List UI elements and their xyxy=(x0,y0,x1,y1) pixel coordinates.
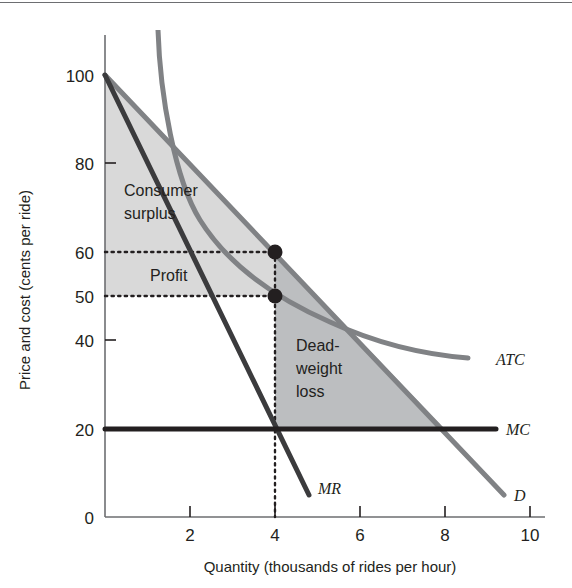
deadweight-loss-label-line3: loss xyxy=(296,383,324,400)
economics-chart: 100 80 60 50 40 20 0 2 4 6 8 10 Quantity… xyxy=(0,0,572,588)
x-tick-label-8: 8 xyxy=(440,526,449,545)
y-axis-label: Price and cost (cents per ride) xyxy=(16,190,33,390)
marginal-cost-curve-label: MC xyxy=(505,421,530,438)
y-tick-label-100: 100 xyxy=(66,67,94,86)
y-tick-label-20: 20 xyxy=(75,421,94,440)
y-tick-label-60: 60 xyxy=(75,244,94,263)
demand-curve-label: D xyxy=(513,487,526,504)
consumer-surplus-label-line1: Consumer xyxy=(124,182,198,199)
x-tick-label-2: 2 xyxy=(185,526,194,545)
y-tick-label-80: 80 xyxy=(75,155,94,174)
deadweight-loss-label-line1: Dead- xyxy=(296,337,340,354)
x-tick-label-6: 6 xyxy=(355,526,364,545)
marginal-revenue-curve-label: MR xyxy=(317,480,341,497)
x-tick-label-10: 10 xyxy=(521,526,540,545)
y-tick-label-0: 0 xyxy=(85,509,94,528)
x-axis-label: Quantity (thousands of rides per hour) xyxy=(204,558,457,575)
atc-curve-label: ATC xyxy=(495,351,525,368)
figure-container: 100 80 60 50 40 20 0 2 4 6 8 10 Quantity… xyxy=(0,0,572,588)
x-tick-label-4: 4 xyxy=(270,526,279,545)
monopoly-price-point xyxy=(268,245,283,260)
y-tick-label-40: 40 xyxy=(75,332,94,351)
average-total-cost-point xyxy=(268,289,283,304)
y-tick-label-50: 50 xyxy=(75,288,94,307)
consumer-surplus-label-line2: surplus xyxy=(124,205,176,222)
deadweight-loss-label-line2: weight xyxy=(295,360,343,377)
profit-label: Profit xyxy=(150,267,188,284)
